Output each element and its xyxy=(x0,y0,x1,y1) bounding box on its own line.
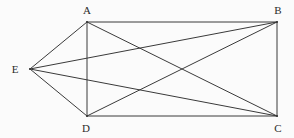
graph-figure: ABCDE xyxy=(0,0,294,138)
vertex-label-b: B xyxy=(274,5,281,16)
graph-vertex-a xyxy=(86,21,88,23)
graph-edge-be xyxy=(30,22,277,69)
graph-vertex-d xyxy=(86,115,88,117)
vertex-label-e: E xyxy=(12,64,19,75)
graph-vertex-c xyxy=(276,115,278,117)
nodes-group xyxy=(29,21,278,117)
vertex-label-a: A xyxy=(83,5,91,16)
vertex-label-d: D xyxy=(82,123,90,134)
graph-vertex-b xyxy=(276,21,278,23)
graph-edge-ce xyxy=(30,69,277,116)
graph-edge-ae xyxy=(30,22,87,69)
graph-edge-de xyxy=(30,69,87,116)
graph-vertex-e xyxy=(29,68,31,70)
edges-group xyxy=(30,22,277,116)
graph-canvas xyxy=(0,0,294,138)
vertex-label-c: C xyxy=(274,123,281,134)
